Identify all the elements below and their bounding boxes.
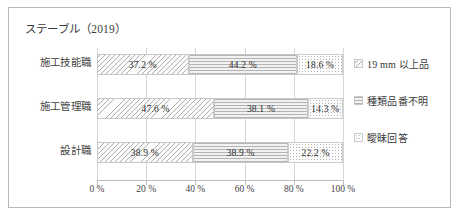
legend-item-1[interactable]: 19 mm 以上品 [354, 56, 429, 71]
legend-item-3[interactable]: 曖昧回答 [354, 130, 408, 145]
bar-segment-1-2[interactable]: 44.2 % [189, 54, 298, 75]
category-label-2: 施工管理職 [19, 98, 91, 113]
bar-value-3-3: 22.2 % [302, 148, 330, 158]
x-tick-label-60: 60 % [235, 184, 255, 194]
x-axis-line [97, 180, 343, 181]
x-axis-tick-labels: 0 % 20 % 40 % 60 % 80 % 100 % [97, 184, 343, 198]
bar-segment-3-2[interactable]: 38.9 % [193, 142, 289, 163]
bar-value-1-1: 37.2 % [129, 60, 157, 70]
bar-value-3-2: 38.9 % [226, 148, 254, 158]
legend-swatch-diagonal-hatch-icon [354, 59, 363, 68]
category-axis-labels: 施工技能職 施工管理職 設計職 [17, 48, 91, 181]
legend-swatch-fine-dots-icon [354, 133, 363, 142]
chart-title: ステーブル（2019） [25, 20, 126, 36]
bar-segment-3-1[interactable]: 38.9 % [97, 142, 193, 163]
x-tick-label-0: 0 % [89, 184, 104, 194]
x-tick-label-100: 100 % [331, 184, 356, 194]
bar-segment-1-3[interactable]: 18.6 % [297, 54, 343, 75]
legend-item-2[interactable]: 種類品番不明 [354, 93, 428, 108]
plot-area: 37.2 % 44.2 % 18.6 % 47.6 % 38.1 % 14.3 … [97, 48, 343, 181]
bar-row-3: 38.9 % 38.9 % 22.2 % [97, 142, 343, 163]
bar-segment-2-2[interactable]: 38.1 % [214, 98, 308, 119]
category-label-3: 設計職 [19, 142, 91, 157]
bar-segment-2-1[interactable]: 47.6 % [97, 98, 214, 119]
bar-value-2-1: 47.6 % [141, 104, 169, 114]
bar-value-1-3: 18.6 % [306, 60, 334, 70]
chart-figure: ステーブル（2019） 施工技能職 施工管理職 設計職 37.2 % 44.2 … [8, 7, 451, 208]
legend-label-3: 曖昧回答 [367, 130, 408, 145]
gridline-100 [343, 48, 344, 181]
x-tick-label-40: 40 % [185, 184, 205, 194]
bar-segment-1-1[interactable]: 37.2 % [97, 54, 189, 75]
legend-swatch-horizontal-lines-icon [354, 96, 363, 105]
x-tick-label-80: 80 % [284, 184, 304, 194]
legend-label-2: 種類品番不明 [367, 93, 428, 108]
legend-label-1: 19 mm 以上品 [367, 56, 429, 71]
bar-value-2-2: 38.1 % [247, 104, 275, 114]
bar-value-3-1: 38.9 % [131, 148, 159, 158]
bar-row-1: 37.2 % 44.2 % 18.6 % [97, 54, 343, 75]
bar-value-1-2: 44.2 % [229, 60, 257, 70]
x-tick-label-20: 20 % [136, 184, 156, 194]
bar-segment-3-3[interactable]: 22.2 % [288, 142, 343, 163]
bar-row-2: 47.6 % 38.1 % 14.3 % [97, 98, 343, 119]
bar-value-2-3: 14.3 % [311, 104, 339, 114]
bar-segment-2-3[interactable]: 14.3 % [308, 98, 343, 119]
category-label-1: 施工技能職 [19, 54, 91, 69]
